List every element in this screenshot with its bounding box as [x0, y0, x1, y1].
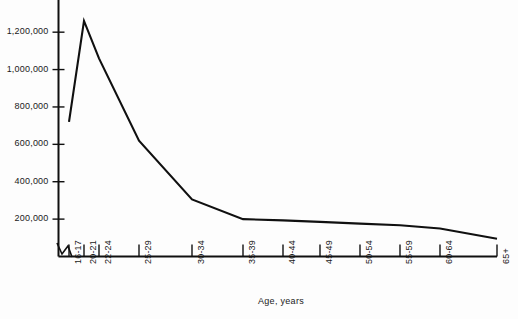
y-tick-label: 1,000,000 [7, 64, 49, 74]
y-tick-label: 1,200,000 [7, 26, 49, 36]
x-tick-marks [69, 245, 497, 257]
y-tick-label: 200,000 [15, 213, 49, 223]
x-tick-label: 65+ [501, 248, 511, 264]
y-tick-label: 600,000 [15, 138, 49, 148]
data-series-line [69, 21, 497, 239]
x-tick-label: 55-59 [404, 239, 414, 263]
x-tick-label: 40-44 [287, 239, 297, 263]
x-tick-label: 16-17 [73, 239, 83, 263]
x-tick-label: 60-64 [444, 239, 454, 263]
x-tick-label: 25-29 [143, 239, 153, 263]
x-axis-title: Age, years [258, 296, 304, 306]
x-tick-label: 50-54 [364, 239, 374, 263]
x-tick-label: 30-34 [196, 239, 206, 263]
chart-figure: 200,000400,000600,000800,0001,000,0001,2… [0, 0, 518, 319]
y-tick-label: 800,000 [15, 101, 49, 111]
x-tick-label: 45-49 [324, 239, 334, 263]
chart-plot-area [0, 0, 518, 319]
y-tick-label: 400,000 [15, 176, 49, 186]
x-tick-label: 35-39 [247, 239, 257, 263]
x-tick-label: 22-24 [103, 239, 113, 263]
x-tick-label: 20-21 [88, 239, 98, 263]
